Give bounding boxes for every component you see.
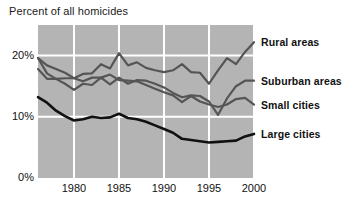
chart-figure: Percent of all homicides 0%10%20% 198019… [0,0,358,198]
x-axis-tick-label: 1985 [99,182,139,194]
legend-label-suburban-areas: Suburban areas [261,75,342,87]
legend-label-large-cities: Large cities [261,128,321,140]
x-axis-tick-label: 1990 [144,182,184,194]
y-axis-tick-label: 20% [0,49,34,61]
x-axis-tick-label: 2000 [234,182,274,194]
y-axis-tick-label: 10% [0,110,34,122]
legend-label-small-cities: Small cities [261,99,320,111]
x-axis-tick-label: 1995 [189,182,229,194]
legend-label-rural-areas: Rural areas [261,36,319,48]
y-axis-tick-label: 0% [0,171,34,183]
series-line-large-cities [38,97,254,142]
x-axis-tick-label: 1980 [54,182,94,194]
